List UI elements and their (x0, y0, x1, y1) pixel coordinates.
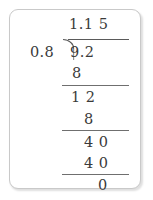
step-subtract-2: 8 (84, 112, 94, 127)
step-subtract-3: 4 0 (84, 156, 109, 171)
dividend-value: 9.2 (70, 45, 95, 60)
step-bring-down-1: 4 0 (84, 135, 109, 150)
step-remainder-1: 1 2 (71, 90, 96, 105)
quotient-value: 1.1 5 (69, 17, 108, 32)
step-rule-1 (62, 85, 129, 86)
step-subtract-1: 8 (72, 66, 82, 81)
step-rule-3 (62, 174, 129, 175)
final-remainder-value: 0 (98, 178, 108, 193)
vinculum-rule (68, 39, 129, 40)
divisor-value: 0.8 (30, 45, 54, 60)
step-rule-2 (62, 130, 129, 131)
worksheet-card: 1.1 5 0.8 9.2 8 1 2 8 4 0 4 0 0 (9, 9, 141, 189)
long-division-problem: 1.1 5 0.8 9.2 8 1 2 8 4 0 4 0 0 (9, 9, 141, 189)
